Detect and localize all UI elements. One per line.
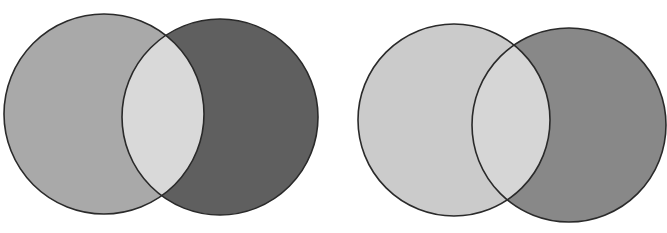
venn-figure — [0, 0, 667, 233]
venn-diagram-left — [4, 14, 318, 215]
venn-diagram-right — [358, 24, 666, 222]
